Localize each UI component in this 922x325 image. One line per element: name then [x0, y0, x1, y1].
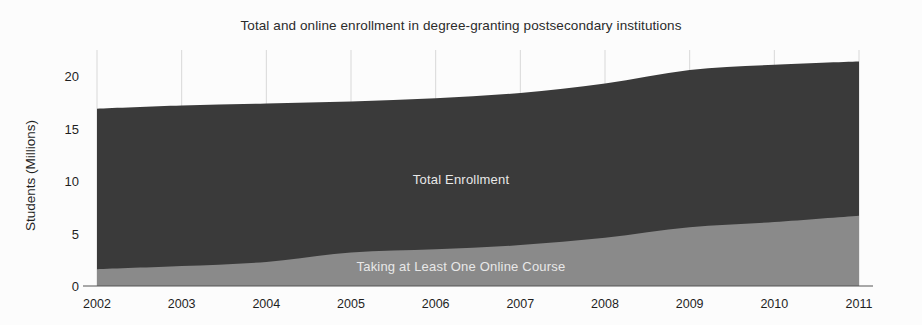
plot-area: [0, 0, 922, 325]
enrollment-area-chart: Total and online enrollment in degree-gr…: [0, 0, 922, 325]
series-label-total-enrollment: Total Enrollment: [0, 172, 922, 187]
series-label-online-course: Taking at Least One Online Course: [0, 259, 922, 274]
